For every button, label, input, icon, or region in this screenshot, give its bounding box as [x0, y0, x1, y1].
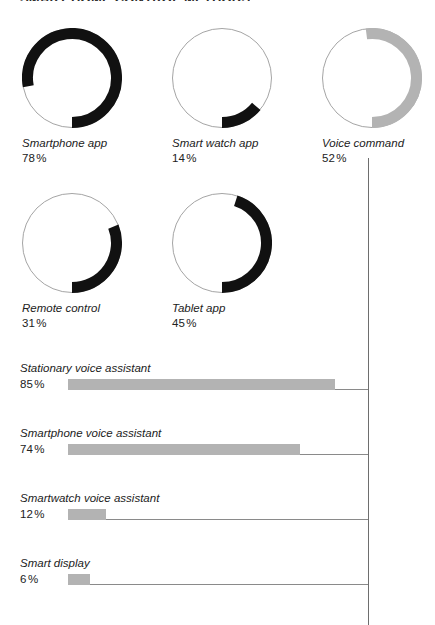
- donut-value-number: 14: [172, 152, 185, 164]
- donut-ring: [172, 28, 272, 128]
- bar-label: Stationary voice assistant: [20, 361, 368, 376]
- donut-value: 14%: [172, 151, 258, 166]
- bar-row: Smart display6%: [20, 556, 368, 587]
- donut-ring: [22, 28, 122, 128]
- donut-value-arc: [72, 227, 117, 288]
- donut-chart-1: [22, 28, 122, 128]
- donut-value: 45%: [172, 316, 225, 331]
- bar-line: 74%: [20, 442, 368, 457]
- bar-connector-line: [335, 389, 368, 390]
- bar-fill: [68, 379, 335, 390]
- bar-line: 85%: [20, 377, 368, 392]
- percent-symbol: %: [36, 317, 46, 329]
- bar-line: 12%: [20, 507, 368, 522]
- bar-value: 85%: [20, 377, 54, 392]
- donut-ring: [322, 28, 422, 128]
- right-axis-rule: [368, 158, 369, 625]
- bar-fill: [68, 444, 300, 455]
- bar-fill: [68, 574, 90, 585]
- bar-track: [54, 509, 368, 520]
- bar-label: Smartphone voice assistant: [20, 426, 368, 441]
- page-title: SMART HOME CONTROL METHODS: [20, 0, 250, 1]
- bar-value-number: 74: [20, 443, 33, 455]
- donut-value-arc: [28, 34, 117, 123]
- bar-track: [54, 379, 368, 390]
- infographic-canvas: SMART HOME CONTROL METHODS Smartphone ap…: [0, 0, 435, 625]
- percent-symbol: %: [186, 317, 196, 329]
- bar-value-number: 85: [20, 378, 33, 390]
- bar-value-number: 12: [20, 508, 33, 520]
- donut-chart-4: [22, 193, 122, 293]
- bar-value: 6%: [20, 572, 54, 587]
- bar-fill: [68, 509, 106, 520]
- bar-track: [54, 574, 368, 585]
- donut-caption-3: Voice command52%: [322, 136, 404, 166]
- donut-value-arc: [222, 201, 266, 288]
- donut-chart-2: [172, 28, 272, 128]
- percent-symbol: %: [34, 508, 44, 520]
- donut-value-number: 52: [322, 152, 335, 164]
- donut-value-arc: [222, 106, 256, 122]
- bar-value: 74%: [20, 442, 54, 457]
- percent-symbol: %: [336, 152, 346, 164]
- percent-symbol: %: [34, 443, 44, 455]
- donut-value: 31%: [22, 316, 100, 331]
- donut-label: Smart watch app: [172, 136, 258, 151]
- donut-chart-5: [172, 193, 272, 293]
- donut-value-number: 45: [172, 317, 185, 329]
- donut-label: Tablet app: [172, 301, 225, 316]
- donut-caption-1: Smartphone app78%: [22, 136, 107, 166]
- donut-value-number: 31: [22, 317, 35, 329]
- bar-value-number: 6: [20, 573, 26, 585]
- bar-connector-line: [90, 584, 368, 585]
- percent-symbol: %: [36, 152, 46, 164]
- donut-caption-2: Smart watch app14%: [172, 136, 258, 166]
- donut-label: Remote control: [22, 301, 100, 316]
- bar-line: 6%: [20, 572, 368, 587]
- bar-value: 12%: [20, 507, 54, 522]
- donut-value-number: 78: [22, 152, 35, 164]
- percent-symbol: %: [34, 378, 44, 390]
- donut-ring: [22, 193, 122, 293]
- donut-label: Voice command: [322, 136, 404, 151]
- donut-label: Smartphone app: [22, 136, 107, 151]
- bar-row: Smartphone voice assistant74%: [20, 426, 368, 457]
- bar-row: Smartwatch voice assistant12%: [20, 491, 368, 522]
- donut-ring: [172, 193, 272, 293]
- percent-symbol: %: [28, 573, 38, 585]
- donut-chart-3: [322, 28, 422, 128]
- percent-symbol: %: [186, 152, 196, 164]
- donut-caption-4: Remote control31%: [22, 301, 100, 331]
- donut-caption-5: Tablet app45%: [172, 301, 225, 331]
- bar-connector-line: [106, 519, 368, 520]
- bar-label: Smart display: [20, 556, 368, 571]
- donut-value: 52%: [322, 151, 404, 166]
- bar-track: [54, 444, 368, 455]
- bar-row: Stationary voice assistant85%: [20, 361, 368, 392]
- bar-label: Smartwatch voice assistant: [20, 491, 368, 506]
- donut-value-arc: [366, 34, 416, 123]
- bar-connector-line: [300, 454, 368, 455]
- donut-value: 78%: [22, 151, 107, 166]
